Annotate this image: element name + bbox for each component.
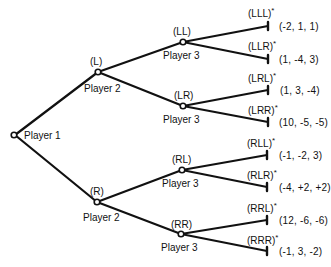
- payoff-vector: (1, -4, 3): [279, 55, 319, 65]
- node-history-label: (LL): [173, 27, 191, 37]
- decision-node-icon: [11, 132, 17, 138]
- terminal-history-label: (RRR)*: [247, 236, 278, 246]
- payoff-vector: (-1, 3, -2): [279, 247, 322, 257]
- payoff-vector: (12, -6, -6): [279, 216, 328, 226]
- node-history-label: (RL): [172, 155, 191, 165]
- payoff-vector: (-4, +2, +2): [279, 183, 331, 193]
- node-history-label: (LR): [174, 91, 193, 101]
- edge-root-L: [15, 72, 98, 135]
- player-label: Player 2: [83, 213, 120, 223]
- terminal-history-label: (RRL)*: [247, 204, 277, 214]
- decision-node-icon: [94, 199, 100, 205]
- terminal-history-label: (LLR)*: [248, 42, 276, 52]
- edge-RR-RRL: [181, 220, 267, 234]
- node-history-label: (L): [90, 57, 102, 67]
- edge-RL-RLL: [182, 155, 267, 170]
- player-label: Player 3: [161, 243, 198, 253]
- terminal-history-label: (RLL)*: [247, 139, 275, 149]
- node-history-label: (R): [90, 187, 104, 197]
- node-history-label: (RR): [171, 220, 192, 230]
- decision-node-icon: [180, 103, 186, 109]
- terminal-history-label: (LRL)*: [248, 74, 276, 84]
- player-1-label: Player 1: [24, 131, 61, 141]
- player-label: Player 3: [163, 51, 200, 61]
- player-label: Player 3: [163, 115, 200, 125]
- terminal-history-label: (LRR)*: [248, 106, 278, 116]
- decision-node-icon: [95, 69, 101, 75]
- decision-node-icon: [179, 167, 185, 173]
- edge-LL-LLL: [183, 26, 268, 42]
- game-tree-diagram: Player 1 (L) Player 2 (R) Player 2 (LL) …: [0, 0, 331, 267]
- player-label: Player 3: [162, 179, 199, 189]
- edge-LR-LRL: [183, 90, 268, 106]
- payoff-vector: (10, -5, -5): [279, 118, 328, 128]
- edge-root-R: [15, 135, 97, 202]
- terminal-history-label: (RLR)*: [247, 171, 277, 181]
- terminal-history-label: (LLL)*: [248, 9, 274, 19]
- payoff-vector: (1, 3, -4): [280, 86, 320, 96]
- payoff-vector: (-2, 1, 1): [279, 22, 319, 32]
- decision-node-icon: [180, 39, 186, 45]
- player-label: Player 2: [84, 84, 121, 94]
- payoff-vector: (-1, -2, 3): [279, 151, 322, 161]
- decision-node-icon: [178, 231, 184, 237]
